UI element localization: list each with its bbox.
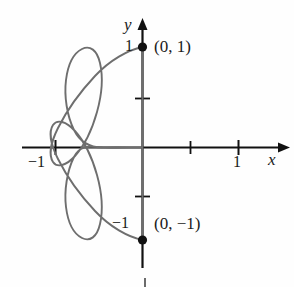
y-axis-arrowhead — [138, 18, 148, 30]
x-tick-label-neg1: −1 — [28, 154, 45, 170]
figure-eight-curve — [51, 47, 143, 240]
x-axis — [22, 140, 290, 155]
y-tick-label-1: 1 — [125, 38, 133, 54]
curve-path — [51, 47, 143, 240]
point-label-0-1: (0, 1) — [154, 38, 191, 55]
point-marker-0-1 — [138, 42, 147, 51]
point-marker-0-neg1 — [138, 235, 147, 244]
y-axis-label: y — [124, 16, 132, 33]
y-tick-label-neg1: −1 — [112, 215, 129, 231]
coordinate-plot — [0, 0, 294, 287]
x-axis-arrowhead — [278, 143, 290, 153]
x-tick-label-1: 1 — [233, 154, 241, 170]
x-axis-label: x — [268, 151, 276, 168]
point-label-0-neg1: (0, −1) — [154, 215, 200, 232]
graph-figure: y x −1 1 1 −1 (0, 1) (0, −1) — [0, 0, 294, 287]
